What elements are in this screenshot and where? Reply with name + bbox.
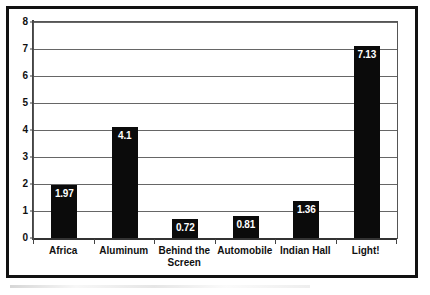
- gridline-6: [34, 76, 397, 77]
- y-tick-label: 4: [22, 125, 28, 135]
- x-tick-mark: [154, 239, 155, 244]
- y-tick-mark-7: [30, 49, 34, 50]
- bar[interactable]: 4.1: [112, 127, 138, 238]
- x-tick-mark: [215, 239, 216, 244]
- y-tick-label: 6: [22, 71, 28, 81]
- y-tick-label: 5: [22, 98, 28, 108]
- y-tick-mark-6: [30, 76, 34, 77]
- x-axis-label: Light!: [336, 245, 397, 257]
- y-tick-mark-5: [30, 103, 34, 104]
- bar[interactable]: 0.72: [172, 219, 198, 238]
- x-axis-label: Indian Hall: [275, 245, 336, 257]
- bar-value-label: 7.13: [354, 50, 380, 60]
- x-axis-category-labels: AfricaAluminumBehind the ScreenAutomobil…: [33, 245, 398, 279]
- gridline-4: [34, 130, 397, 131]
- plot-area: 0123456781.974.10.720.811.367.13: [33, 21, 398, 239]
- scan-artifact: [10, 285, 310, 288]
- y-tick-label: 0: [22, 233, 28, 243]
- y-tick-label: 3: [22, 152, 28, 162]
- bar[interactable]: 7.13: [354, 46, 380, 239]
- x-axis-label: Behind the Screen: [154, 245, 215, 269]
- bar-value-label: 0.72: [172, 223, 198, 233]
- bar[interactable]: 0.81: [233, 216, 259, 238]
- bar-value-label: 1.36: [293, 205, 319, 215]
- x-tick-mark: [275, 239, 276, 244]
- y-tick-label: 8: [22, 17, 28, 27]
- y-tick-mark-2: [30, 184, 34, 185]
- bar-value-label: 4.1: [112, 131, 138, 141]
- bar[interactable]: 1.36: [293, 201, 319, 238]
- x-axis-label: Aluminum: [94, 245, 155, 257]
- y-tick-label: 1: [22, 206, 28, 216]
- x-axis-label: Automobile: [215, 245, 276, 257]
- y-tick-mark-1: [30, 211, 34, 212]
- y-tick-label: 7: [22, 44, 28, 54]
- x-tick-mark: [94, 239, 95, 244]
- bar-value-label: 1.97: [51, 189, 77, 199]
- gridline-1: [34, 211, 397, 212]
- gridline-7: [34, 49, 397, 50]
- y-tick-mark-4: [30, 130, 34, 131]
- bar-value-label: 0.81: [233, 220, 259, 230]
- x-tick-mark: [33, 239, 34, 244]
- bar[interactable]: 1.97: [51, 185, 77, 238]
- gridline-2: [34, 184, 397, 185]
- x-axis-label: Africa: [33, 245, 94, 257]
- figure-frame: 0123456781.974.10.720.811.367.13 AfricaA…: [6, 6, 418, 278]
- x-tick-mark: [396, 239, 397, 244]
- gridline-3: [34, 157, 397, 158]
- gridline-8: [34, 22, 397, 23]
- gridline-5: [34, 103, 397, 104]
- y-tick-label: 2: [22, 179, 28, 189]
- y-tick-mark-3: [30, 157, 34, 158]
- y-tick-mark-8: [30, 22, 34, 23]
- x-tick-mark: [336, 239, 337, 244]
